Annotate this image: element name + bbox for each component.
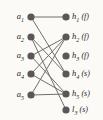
graph-node-l3 (62, 106, 69, 113)
node-layer (27, 13, 69, 113)
graph-node-a4 (27, 70, 34, 77)
graph-node-h2 (62, 33, 69, 40)
graph-node-a3 (27, 52, 34, 59)
graph-node-h5 (62, 90, 69, 97)
bipartite-graph-figure: a1a2a3a4a5h1 (f)h2 (f)h3 (f)h4 (s)h5 (s)… (0, 0, 103, 120)
graph-edge-a2-l3 (31, 37, 66, 110)
graph-edge-a5-h5 (31, 94, 66, 95)
graph-node-h1 (62, 13, 69, 20)
graph-node-a1 (27, 13, 34, 20)
graph-edge-a3-h5 (31, 56, 66, 94)
node-label-h5: h5 (s) (72, 89, 90, 100)
node-label-h3: h3 (f) (72, 51, 89, 62)
node-label-h1: h1 (f) (72, 12, 89, 23)
graph-edge-a4-h5 (31, 74, 66, 94)
node-label-h2: h2 (f) (72, 32, 89, 43)
node-label-a2: a2 (17, 32, 24, 43)
node-label-a1: a1 (17, 12, 24, 23)
graph-node-a2 (27, 33, 34, 40)
node-label-a3: a3 (17, 51, 24, 62)
node-label-a5: a5 (17, 90, 24, 101)
edge-layer (31, 17, 66, 110)
node-label-l3: l3 (s) (72, 105, 88, 116)
graph-node-h4 (62, 70, 69, 77)
node-label-a4: a4 (17, 69, 24, 80)
graph-node-h3 (62, 52, 69, 59)
node-label-h4: h4 (s) (72, 69, 90, 80)
graph-node-a5 (27, 91, 34, 98)
